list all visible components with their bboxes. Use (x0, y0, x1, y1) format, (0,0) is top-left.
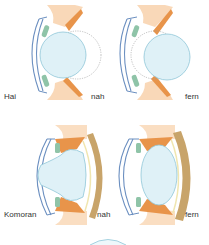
eye-diagram-cormorant-far (115, 125, 195, 225)
species-label-hai: Hai (4, 93, 16, 101)
panel-hai-near (25, 5, 105, 100)
panel-cormorant-far (115, 125, 195, 225)
eye-diagram-cormorant-near (25, 125, 105, 225)
species-label-cormorant: Komoran (4, 211, 36, 219)
state-label-hai-near: nah (91, 93, 104, 101)
state-label-cormorant-far: fern (185, 211, 199, 219)
cropped-lens-arc (88, 236, 128, 245)
panel-cormorant-near (25, 125, 105, 225)
eye-diagram-hai-near (25, 5, 105, 100)
eye-diagram-hai-far (115, 5, 195, 100)
state-label-hai-far: fern (185, 93, 199, 101)
panel-hai-far (115, 5, 195, 100)
state-label-cormorant-near: nah (97, 211, 110, 219)
